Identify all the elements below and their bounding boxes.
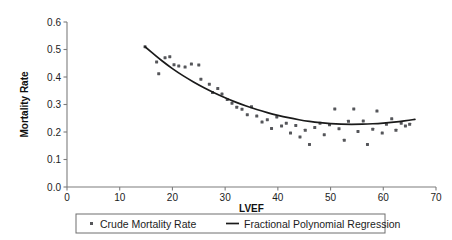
y-axis-title: Mortality Rate <box>19 71 30 138</box>
x-tick-label: 10 <box>114 192 126 203</box>
data-point <box>294 124 297 127</box>
y-axis: 0.00.10.20.30.40.50.6 <box>47 17 67 193</box>
data-point <box>199 78 202 81</box>
data-point <box>270 127 273 130</box>
legend-label-crude-mortality-rate[interactable]: Crude Mortality Rate <box>100 218 196 230</box>
data-point <box>308 143 311 146</box>
x-tick-label: 30 <box>220 192 232 203</box>
data-point <box>177 65 180 68</box>
data-point <box>157 72 160 75</box>
y-tick-label: 0.4 <box>47 72 61 83</box>
data-point <box>246 113 249 116</box>
x-tick-label: 50 <box>325 192 337 203</box>
data-point <box>362 120 365 123</box>
data-point <box>394 129 397 132</box>
data-point <box>164 56 167 59</box>
data-point <box>230 102 233 105</box>
data-point <box>352 107 355 110</box>
data-point <box>304 129 307 132</box>
data-point <box>347 120 350 123</box>
data-point <box>235 106 238 109</box>
mortality-vs-lvef-chart: 0.00.10.20.30.40.50.6 010203040506070 Mo… <box>0 0 452 240</box>
chart-legend[interactable]: Crude Mortality RateFractional Polynomia… <box>76 214 401 233</box>
data-point <box>390 117 393 120</box>
data-point <box>343 139 346 142</box>
x-tick-label: 0 <box>64 192 70 203</box>
data-point <box>371 128 374 131</box>
y-tick-label: 0.2 <box>47 127 61 138</box>
data-point <box>338 127 341 130</box>
regression-line <box>145 47 415 125</box>
scatter-points <box>144 45 412 146</box>
data-point <box>285 122 288 125</box>
data-point <box>313 126 316 129</box>
data-point <box>255 115 258 118</box>
data-point <box>216 87 219 90</box>
data-point <box>333 107 336 110</box>
y-tick-label: 0.0 <box>47 182 61 193</box>
x-tick-label: 70 <box>430 192 442 203</box>
regression-curve <box>145 47 415 125</box>
x-axis: 010203040506070 <box>64 187 442 203</box>
x-axis-title: LVEF <box>239 203 264 214</box>
data-point <box>241 108 244 111</box>
data-point <box>280 124 283 127</box>
y-tick-label: 0.3 <box>47 99 61 110</box>
data-point <box>289 132 292 135</box>
data-point <box>375 110 378 113</box>
data-point <box>323 133 326 136</box>
legend-label-fractional-polynomial-regression[interactable]: Fractional Polynomial Regression <box>244 218 401 230</box>
data-point <box>366 143 369 146</box>
x-tick-label: 20 <box>167 192 179 203</box>
y-tick-label: 0.5 <box>47 44 61 55</box>
data-point <box>184 66 187 69</box>
x-tick-label: 40 <box>272 192 284 203</box>
y-tick-label: 0.6 <box>47 17 61 28</box>
data-point <box>356 130 359 133</box>
data-point <box>261 121 264 124</box>
data-point <box>408 123 411 126</box>
data-point <box>266 118 269 121</box>
legend-marker-crude-mortality-rate <box>90 222 93 225</box>
data-point <box>381 132 384 135</box>
chart-container: 0.00.10.20.30.40.50.6 010203040506070 Mo… <box>0 0 452 240</box>
data-point <box>404 124 407 127</box>
y-tick-label: 0.1 <box>47 154 61 165</box>
data-point <box>190 63 193 66</box>
data-point <box>298 135 301 138</box>
data-point <box>155 60 158 63</box>
data-point <box>168 55 171 58</box>
data-point <box>197 63 200 66</box>
data-point <box>173 63 176 66</box>
x-tick-label: 60 <box>378 192 390 203</box>
data-point <box>208 83 211 86</box>
